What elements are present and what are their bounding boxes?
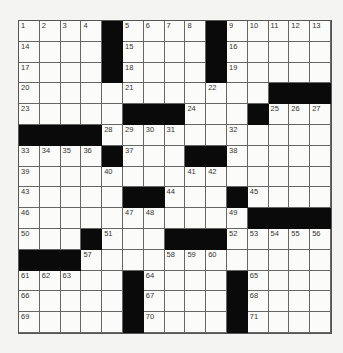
grid-cell[interactable]: 69 [19,312,40,333]
grid-cell[interactable] [289,167,310,188]
grid-cell[interactable]: 5 [123,21,144,42]
grid-cell[interactable]: 7 [165,21,186,42]
grid-cell[interactable]: 59 [185,250,206,271]
grid-cell[interactable]: 37 [123,146,144,167]
grid-cell[interactable] [40,42,61,63]
grid-cell[interactable] [165,42,186,63]
grid-cell[interactable] [227,83,248,104]
grid-cell[interactable]: 21 [123,83,144,104]
grid-cell[interactable] [185,271,206,292]
grid-cell[interactable] [227,250,248,271]
grid-cell[interactable] [102,312,123,333]
grid-cell[interactable]: 31 [165,125,186,146]
grid-cell[interactable]: 45 [248,187,269,208]
grid-cell[interactable] [289,271,310,292]
grid-cell[interactable]: 9 [227,21,248,42]
grid-cell[interactable] [165,167,186,188]
grid-cell[interactable]: 24 [185,104,206,125]
grid-cell[interactable] [123,250,144,271]
grid-cell[interactable] [165,208,186,229]
grid-cell[interactable] [248,125,269,146]
grid-cell[interactable] [227,104,248,125]
grid-cell[interactable]: 38 [227,146,248,167]
grid-cell[interactable]: 14 [19,42,40,63]
grid-cell[interactable]: 57 [81,250,102,271]
grid-cell[interactable]: 19 [227,63,248,84]
grid-cell[interactable] [123,167,144,188]
grid-cell[interactable] [289,291,310,312]
grid-cell[interactable]: 6 [144,21,165,42]
grid-cell[interactable] [165,83,186,104]
grid-cell[interactable]: 64 [144,271,165,292]
grid-cell[interactable] [61,83,82,104]
grid-cell[interactable]: 25 [269,104,290,125]
grid-cell[interactable]: 54 [269,229,290,250]
grid-cell[interactable] [227,167,248,188]
grid-cell[interactable] [165,312,186,333]
grid-cell[interactable] [123,229,144,250]
grid-cell[interactable] [269,42,290,63]
grid-cell[interactable] [40,167,61,188]
grid-cell[interactable] [289,312,310,333]
grid-cell[interactable] [269,146,290,167]
grid-cell[interactable] [185,125,206,146]
grid-cell[interactable] [185,42,206,63]
grid-cell[interactable] [206,187,227,208]
grid-cell[interactable] [310,125,331,146]
grid-cell[interactable]: 42 [206,167,227,188]
grid-cell[interactable] [81,291,102,312]
grid-cell[interactable]: 67 [144,291,165,312]
grid-cell[interactable] [61,312,82,333]
grid-cell[interactable]: 8 [185,21,206,42]
grid-cell[interactable] [40,83,61,104]
grid-cell[interactable]: 20 [19,83,40,104]
grid-cell[interactable] [81,208,102,229]
grid-cell[interactable] [165,146,186,167]
grid-cell[interactable] [81,63,102,84]
grid-cell[interactable] [61,104,82,125]
grid-cell[interactable]: 17 [19,63,40,84]
grid-cell[interactable]: 53 [248,229,269,250]
grid-cell[interactable] [248,250,269,271]
grid-cell[interactable] [40,291,61,312]
grid-cell[interactable] [144,42,165,63]
grid-cell[interactable] [144,229,165,250]
grid-cell[interactable] [81,187,102,208]
grid-cell[interactable]: 12 [289,21,310,42]
grid-cell[interactable] [248,63,269,84]
grid-cell[interactable] [144,63,165,84]
grid-cell[interactable] [269,271,290,292]
grid-cell[interactable]: 46 [19,208,40,229]
grid-cell[interactable] [102,250,123,271]
grid-cell[interactable]: 22 [206,83,227,104]
grid-cell[interactable]: 3 [61,21,82,42]
grid-cell[interactable] [269,63,290,84]
grid-cell[interactable] [40,229,61,250]
grid-cell[interactable]: 39 [19,167,40,188]
grid-cell[interactable] [269,312,290,333]
grid-cell[interactable] [310,167,331,188]
grid-cell[interactable]: 55 [289,229,310,250]
grid-cell[interactable] [144,250,165,271]
grid-cell[interactable]: 27 [310,104,331,125]
grid-cell[interactable] [289,63,310,84]
grid-cell[interactable]: 26 [289,104,310,125]
grid-cell[interactable] [310,271,331,292]
grid-cell[interactable] [289,42,310,63]
grid-cell[interactable] [144,167,165,188]
grid-cell[interactable] [206,104,227,125]
grid-cell[interactable]: 51 [102,229,123,250]
grid-cell[interactable]: 56 [310,229,331,250]
grid-cell[interactable] [185,83,206,104]
grid-cell[interactable] [206,271,227,292]
grid-cell[interactable] [81,83,102,104]
grid-cell[interactable] [144,146,165,167]
grid-cell[interactable] [289,187,310,208]
grid-cell[interactable] [185,63,206,84]
grid-cell[interactable] [310,312,331,333]
grid-cell[interactable]: 66 [19,291,40,312]
grid-cell[interactable]: 35 [61,146,82,167]
grid-cell[interactable]: 10 [248,21,269,42]
grid-cell[interactable]: 13 [310,21,331,42]
grid-cell[interactable] [102,104,123,125]
